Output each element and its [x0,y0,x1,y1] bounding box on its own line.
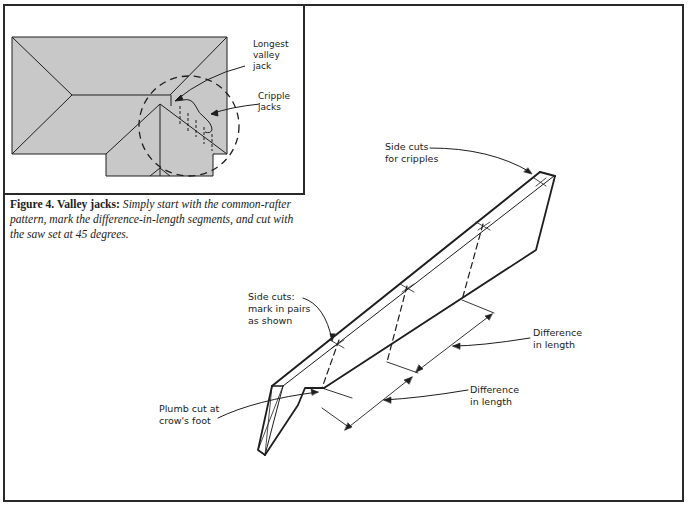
label-side-cuts-pairs: Side cuts: mark in pairs as shown [248,291,311,327]
label-difference-upper: Difference in length [533,327,582,351]
caption-lead: Figure 4. Valley jacks: [10,198,120,211]
roof-plan-inset: Longest valley jack Cripple jacks [3,4,305,195]
label-cripple-jacks: Cripple jacks [258,91,290,113]
label-longest-valley-jack: Longest valley jack [253,39,289,72]
label-plumb-cut: Plumb cut at crow's foot [159,403,219,427]
figure-caption: Figure 4. Valley jacks: Simply start wit… [10,197,302,242]
label-difference-lower: Difference in length [470,384,519,408]
label-side-cuts-cripples: Side cuts for cripples [385,141,438,165]
